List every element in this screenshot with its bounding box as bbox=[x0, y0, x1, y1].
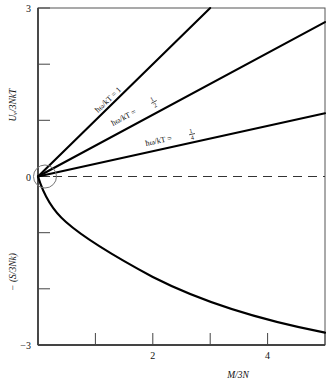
y-axis-label-lower: − (S/3Nk) bbox=[8, 253, 19, 291]
y-tick-label-zero: 0 bbox=[26, 172, 31, 183]
y-tick-label-bottom: −3 bbox=[20, 340, 31, 351]
x-tick-label-4: 4 bbox=[265, 350, 270, 361]
figure-container: ħω/kT = 1 ħω/kT = 1 2 ħω/kT = 1 4 bbox=[0, 0, 336, 387]
x-axis-label: M/3N bbox=[226, 370, 249, 380]
chart-svg: ħω/kT = 1 ħω/kT = 1 2 ħω/kT = 1 4 bbox=[0, 0, 336, 387]
y-tick-label-top: 3 bbox=[26, 3, 31, 14]
y-axis-label-upper: Uᵥ/3NkT bbox=[8, 88, 18, 121]
x-tick-label-2: 2 bbox=[150, 350, 155, 361]
